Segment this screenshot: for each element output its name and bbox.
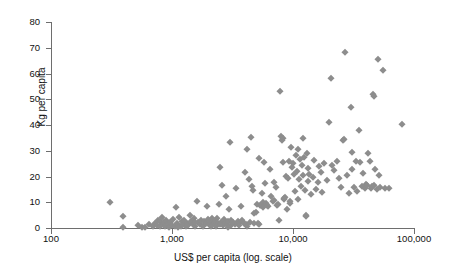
data-point bbox=[323, 176, 329, 182]
y-tick-label-30: 30 bbox=[16, 146, 40, 156]
data-point bbox=[346, 190, 352, 196]
y-tick-label-10: 10 bbox=[16, 197, 40, 207]
data-point bbox=[217, 164, 223, 170]
data-point bbox=[348, 149, 354, 155]
data-point bbox=[266, 166, 272, 172]
x-axis-title: US$ per capita (log. scale) bbox=[51, 253, 415, 263]
data-point bbox=[219, 182, 225, 188]
data-point bbox=[295, 145, 301, 151]
data-point bbox=[223, 193, 229, 199]
data-point bbox=[295, 195, 301, 201]
data-point bbox=[349, 166, 355, 172]
data-point bbox=[334, 157, 340, 163]
data-point bbox=[193, 197, 199, 203]
data-point bbox=[238, 203, 244, 209]
data-point bbox=[375, 172, 381, 178]
data-point bbox=[250, 187, 256, 193]
data-point bbox=[216, 201, 222, 207]
x-tick-label-10000: 10,000 bbox=[263, 234, 323, 244]
data-point bbox=[386, 185, 392, 191]
data-point bbox=[258, 190, 264, 196]
data-point bbox=[399, 121, 405, 127]
data-point bbox=[365, 150, 371, 156]
data-point bbox=[356, 127, 362, 133]
data-point bbox=[379, 67, 385, 73]
data-point bbox=[256, 221, 262, 227]
data-point bbox=[318, 169, 324, 175]
data-point bbox=[204, 203, 210, 209]
data-point bbox=[292, 188, 298, 194]
data-point bbox=[226, 206, 232, 212]
data-point bbox=[262, 180, 268, 186]
data-point bbox=[245, 175, 251, 181]
data-point bbox=[107, 198, 113, 204]
data-point bbox=[242, 169, 248, 175]
data-point bbox=[307, 191, 313, 197]
data-point bbox=[277, 88, 283, 94]
data-point bbox=[303, 211, 309, 217]
data-point bbox=[300, 135, 306, 141]
scatter-chart: 01020304050607080 1001,00010,000100,000 … bbox=[0, 0, 451, 277]
data-point bbox=[347, 104, 353, 110]
data-point bbox=[319, 189, 325, 195]
data-point bbox=[360, 170, 366, 176]
data-point bbox=[275, 217, 281, 223]
y-tick-label-80: 80 bbox=[16, 17, 40, 27]
data-point bbox=[261, 158, 267, 164]
data-point bbox=[288, 144, 294, 150]
data-point bbox=[344, 172, 350, 178]
data-point bbox=[248, 134, 254, 140]
data-point bbox=[357, 158, 363, 164]
data-point bbox=[326, 119, 332, 125]
data-point bbox=[354, 188, 360, 194]
data-point bbox=[272, 184, 278, 190]
data-point bbox=[331, 167, 337, 173]
plot-area bbox=[51, 22, 414, 228]
data-point bbox=[366, 157, 372, 163]
x-tick-label-100000: 100,000 bbox=[384, 234, 444, 244]
data-point bbox=[284, 206, 290, 212]
y-tick-label-0: 0 bbox=[16, 223, 40, 233]
data-point bbox=[374, 56, 380, 62]
data-point bbox=[173, 204, 179, 210]
data-point bbox=[338, 184, 344, 190]
x-tick-label-100: 100 bbox=[21, 234, 81, 244]
data-point bbox=[372, 166, 378, 172]
data-point bbox=[341, 136, 347, 142]
data-point bbox=[311, 157, 317, 163]
data-point bbox=[119, 212, 125, 218]
data-point bbox=[226, 139, 232, 145]
x-axis-line bbox=[51, 228, 415, 229]
data-point bbox=[285, 174, 291, 180]
data-point bbox=[244, 146, 250, 152]
data-point bbox=[233, 185, 239, 191]
x-tick-label-1000: 1,000 bbox=[142, 234, 202, 244]
data-point bbox=[235, 222, 241, 228]
data-point bbox=[336, 175, 342, 181]
data-point bbox=[342, 49, 348, 55]
y-axis-title: Kg per capita bbox=[37, 49, 47, 145]
data-point bbox=[327, 74, 333, 80]
data-point bbox=[304, 177, 310, 183]
y-tick-label-20: 20 bbox=[16, 172, 40, 182]
